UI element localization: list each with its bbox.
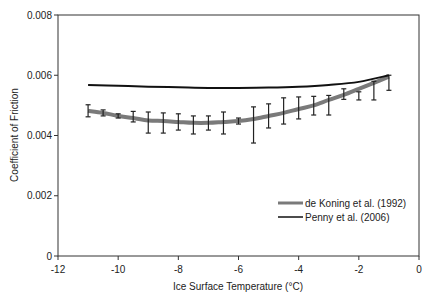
x-tick-label: -6 bbox=[234, 264, 243, 275]
y-axis-title: Coefficient of Friction bbox=[9, 88, 20, 182]
y-tick-label: 0.004 bbox=[27, 130, 52, 141]
x-tick-label: -10 bbox=[111, 264, 126, 275]
y-tick-label: 0.002 bbox=[27, 190, 52, 201]
x-axis: -12-10-8-6-4-20 bbox=[51, 256, 422, 275]
x-tick-label: -2 bbox=[354, 264, 363, 275]
x-axis-title: Ice Surface Temperature (°C) bbox=[173, 281, 303, 292]
y-tick-label: 0.008 bbox=[27, 10, 52, 21]
x-tick-label: -4 bbox=[294, 264, 303, 275]
y-axis: 00.0020.0040.0060.008 bbox=[27, 10, 58, 262]
x-tick-label: 0 bbox=[416, 264, 422, 275]
x-tick-label: -8 bbox=[174, 264, 183, 275]
friction-chart: 00.0020.0040.0060.008 -12-10-8-6-4-20 Ic… bbox=[0, 0, 436, 306]
x-tick-label: -12 bbox=[51, 264, 66, 275]
legend-label: Penny et al. (2006) bbox=[305, 212, 390, 223]
legend-label: de Koning et al. (1992) bbox=[305, 198, 406, 209]
y-tick-label: 0.006 bbox=[27, 70, 52, 81]
y-tick-label: 0 bbox=[46, 251, 52, 262]
